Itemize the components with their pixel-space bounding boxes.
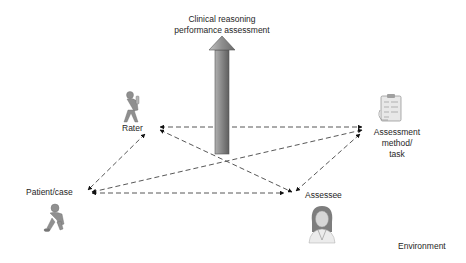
patient-figure-icon	[44, 204, 64, 232]
performance-arrow-icon	[209, 36, 235, 154]
title-line-1: Clinical reasoning	[172, 14, 272, 24]
node-assessee-label: Assessee	[305, 190, 342, 200]
clipboard-checklist-icon	[379, 94, 401, 121]
edge-rater-patient	[88, 134, 145, 190]
doctor-portrait-icon	[309, 206, 335, 243]
node-patient-label: Patient/case	[26, 187, 73, 197]
rater-figure-icon	[124, 92, 139, 123]
environment-label: Environment	[398, 241, 446, 251]
node-rater-label: Rater	[122, 123, 143, 133]
node-assessment-label-1: Assessment	[368, 127, 426, 137]
node-assessment-label-3: task	[368, 149, 426, 159]
title-line-2: performance assessment	[162, 25, 282, 35]
node-assessment-label-2: method/	[368, 138, 426, 148]
